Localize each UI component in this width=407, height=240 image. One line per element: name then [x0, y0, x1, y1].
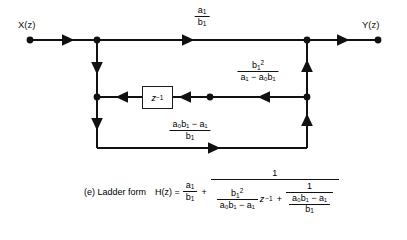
eq-inner-right-num: 1 [286, 182, 333, 193]
eq-inner-right-subfraction: a₀b₁ − a₁ b1 [289, 194, 330, 215]
gain-middle: b12 a₁ − a₀b₁ [237, 59, 278, 83]
gain-ff-num-sub: 1 [203, 8, 207, 15]
eq-first-den-sub: 1 [191, 195, 195, 202]
terminal-dot-output [375, 37, 382, 44]
node-dot-top-right [304, 37, 311, 44]
eq-denominator-row: b12 a₀b₁ − a₁ z−1 + 1 a₀b₁ − a₁ b1 [217, 182, 333, 215]
delay-exponent: −1 [156, 94, 163, 101]
eq-inner-left-fraction: b12 a₀b₁ − a₁ [217, 187, 258, 211]
node-dot-mid-left [94, 94, 101, 101]
gain-feedforward: a1 b1 [195, 6, 210, 27]
node-dot-top-left [94, 37, 101, 44]
caption-and-equation: (e) Ladder form H(z) = a1 b1 + 1 b12 a₀b… [84, 168, 339, 215]
eq-inner-right-sub-num: a₀b₁ − a₁ [289, 194, 330, 205]
unit-delay-block: z−1 [142, 86, 173, 109]
gain-mid-den: a₁ − a₀b₁ [237, 72, 278, 82]
eq-inner-left-num-sup: 2 [240, 187, 244, 194]
ladder-form-figure: X(z) Y(z) a1 b1 b12 a₁ − a₀b₁ a₀b₁ − a₁ … [0, 0, 407, 240]
eq-inner-left-den: a₀b₁ − a₁ [217, 200, 258, 210]
transfer-function-lhs: H(z) = [155, 187, 180, 197]
eq-inner-right-fraction: 1 a₀b₁ − a₁ b1 [286, 182, 333, 215]
eq-first-num-sub: 1 [191, 183, 195, 190]
eq-outer-numerator: 1 [211, 168, 339, 180]
output-label: Y(z) [362, 20, 379, 30]
eq-inner-right-sub-den-sub: 1 [310, 208, 314, 215]
node-dot-mid-center [207, 94, 214, 101]
gain-ff-den-sub: 1 [203, 20, 207, 27]
gain-fb-den-sub: 1 [191, 134, 195, 141]
eq-plus-inner: + [277, 194, 282, 204]
eq-plus-outer: + [201, 187, 206, 197]
terminal-dot-input [27, 37, 34, 44]
eq-z-base: z [260, 194, 265, 204]
eq-first-term: a1 b1 [183, 181, 198, 202]
eq-z-exponent: −1 [265, 195, 272, 202]
node-dot-mid-right [304, 94, 311, 101]
gain-mid-num-sup: 2 [261, 59, 265, 66]
gain-feedback: a₀b₁ − a₁ b1 [169, 120, 210, 141]
caption-label: (e) Ladder form [84, 187, 146, 197]
eq-outer-fraction: 1 b12 a₀b₁ − a₁ z−1 + 1 a₀b₁ − a₁ [211, 168, 339, 215]
input-label: X(z) [18, 20, 35, 30]
gain-fb-num: a₀b₁ − a₁ [169, 120, 210, 131]
